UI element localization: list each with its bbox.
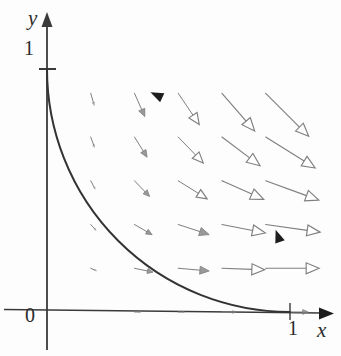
plot-canvas <box>0 0 341 356</box>
field-vector-1 <box>134 93 144 116</box>
vector-shaft <box>266 137 304 161</box>
vector-shaft <box>178 268 200 270</box>
field-vector-10 <box>91 181 96 190</box>
vector-shaft <box>91 137 94 145</box>
vector-arrowhead-filled <box>139 108 145 116</box>
field-vector-17 <box>178 225 209 236</box>
vector-shaft <box>222 225 253 231</box>
vector-shaft <box>134 268 147 271</box>
vector-shaft <box>134 93 141 109</box>
vector-shaft <box>266 225 308 231</box>
vector-shaft <box>222 93 246 121</box>
vector-arrowhead-hollow <box>306 225 320 236</box>
vector-shaft <box>266 93 300 127</box>
vector-arrowhead-hollow <box>252 225 266 236</box>
vector-shaft <box>91 93 94 102</box>
axis-vector-3 <box>290 310 308 315</box>
vector-arrowhead-hollow <box>242 117 255 130</box>
vector-shaft <box>266 181 307 196</box>
field-vector-23 <box>222 264 265 275</box>
field-vector-7 <box>178 137 203 163</box>
vector-shaft <box>91 181 94 187</box>
vector-shaft <box>91 268 95 270</box>
vector-arrowhead-filled <box>303 310 308 315</box>
field-vector-22 <box>178 266 209 274</box>
vector-arrowhead-hollow <box>196 190 207 199</box>
vector-shaft <box>178 93 193 115</box>
vector-arrowhead-filled <box>141 150 147 158</box>
vector-shaft <box>134 225 146 232</box>
vector-arrowhead-small <box>92 144 95 148</box>
field-vector-14 <box>266 181 319 201</box>
curve-orientation-arrowhead-1 <box>275 230 284 244</box>
field-vector-12 <box>178 181 207 199</box>
field-vector-11 <box>134 181 149 197</box>
field-vector-9 <box>266 137 315 168</box>
field-vector-3 <box>222 93 255 131</box>
y-tick-label-one: 1 <box>24 38 34 58</box>
field-vector-20 <box>91 268 98 271</box>
vector-shaft <box>178 137 195 155</box>
vector-arrowhead-filled <box>200 266 210 274</box>
field-vector-24 <box>266 263 319 274</box>
field-vector-19 <box>266 225 320 236</box>
vector-field-group <box>91 93 320 314</box>
vector-arrowhead-hollow <box>250 189 264 199</box>
vector-arrowhead-filled <box>199 228 210 236</box>
vector-arrowhead-hollow <box>305 190 319 200</box>
vector-arrowhead-hollow <box>189 112 199 124</box>
axis-vector-2 <box>222 310 237 314</box>
field-vector-4 <box>266 93 309 136</box>
vector-shaft <box>178 181 198 194</box>
vector-shaft <box>222 137 250 158</box>
vector-arrowhead-small <box>94 269 97 271</box>
field-vector-8 <box>222 137 260 166</box>
vector-arrowhead-filled <box>146 229 153 234</box>
vector-arrowhead-hollow <box>301 156 315 168</box>
vector-shaft <box>222 181 252 194</box>
x-tick-label-one: 1 <box>288 318 298 338</box>
field-vector-0 <box>91 93 95 106</box>
field-vector-18 <box>222 225 265 236</box>
vector-arrowhead-small <box>92 102 95 106</box>
curve-orientation-arrowhead-0 <box>150 92 164 102</box>
y-axis-label: y <box>28 8 37 29</box>
vector-shaft <box>134 137 143 151</box>
vector-arrowhead-hollow <box>252 264 265 275</box>
field-vector-15 <box>91 225 97 232</box>
field-vector-13 <box>222 181 264 200</box>
vector-shaft <box>222 268 252 269</box>
vector-arrowhead-hollow <box>246 153 260 165</box>
vector-shaft <box>91 225 95 229</box>
field-vector-2 <box>178 93 199 124</box>
field-vector-5 <box>91 137 95 148</box>
vector-shaft <box>178 225 200 232</box>
vector-arrowhead-hollow <box>306 263 319 274</box>
x-axis-label: x <box>317 320 326 341</box>
origin-label: 0 <box>25 305 35 325</box>
vector-field-figure: y x 1 1 0 <box>0 0 341 356</box>
axes-group <box>4 12 334 350</box>
field-vector-6 <box>134 137 147 157</box>
vector-shaft <box>134 181 145 192</box>
vector-arrowhead-small <box>232 310 236 314</box>
field-vector-16 <box>134 225 152 235</box>
y-axis-arrowhead <box>42 12 53 27</box>
